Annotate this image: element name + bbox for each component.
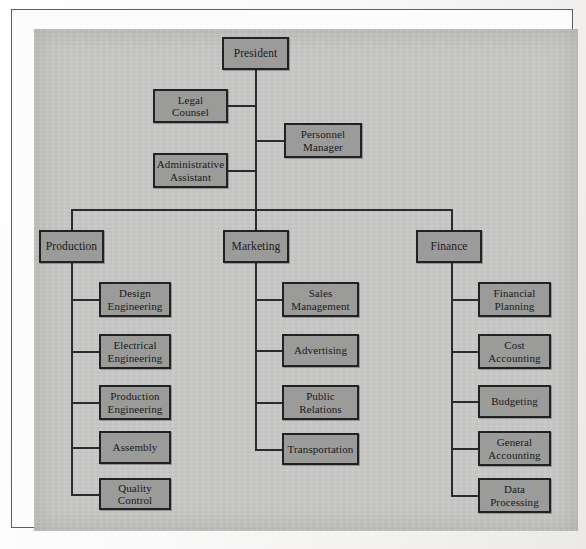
node-marketing: Marketing <box>223 230 289 263</box>
node-label: Legal Counsel <box>172 94 209 119</box>
node-label: President <box>234 47 278 60</box>
node-design-engineering: Design Engineering <box>99 282 171 317</box>
marketing-stem <box>255 263 257 450</box>
organization-chart-figure: PresidentLegal CounselPersonnel ManagerA… <box>0 0 586 549</box>
node-assembly: Assembly <box>99 431 171 464</box>
node-label: Design Engineering <box>108 287 163 312</box>
transportation-link <box>255 449 283 451</box>
node-label: Transportation <box>288 443 354 455</box>
electrical-engineering-link <box>71 351 100 353</box>
design-engineering-link <box>71 299 100 301</box>
finance-drop <box>451 209 453 230</box>
administrative-assistant-link <box>227 170 256 172</box>
node-label: Advertising <box>294 344 347 356</box>
node-production-engineering: Production Engineering <box>99 385 171 420</box>
node-production: Production <box>39 230 104 263</box>
cost-accounting-link <box>451 351 479 353</box>
financial-planning-link <box>451 299 479 301</box>
node-data-processing: Data Processing <box>478 478 551 513</box>
node-label: Data Processing <box>490 483 539 508</box>
node-label: Financial Planning <box>494 287 536 312</box>
division-bus <box>71 209 452 211</box>
finance-stem <box>451 263 453 496</box>
node-label: General Accounting <box>488 436 540 461</box>
production-engineering-link <box>71 402 100 404</box>
production-drop <box>71 209 73 230</box>
node-label: Production Engineering <box>108 390 163 415</box>
node-public-relations: Public Relations <box>282 385 359 420</box>
quality-control-link <box>71 494 100 496</box>
node-label: Assembly <box>113 441 158 453</box>
node-financial-planning: Financial Planning <box>478 282 551 317</box>
node-label: Cost Accounting <box>488 339 540 364</box>
node-administrative-assistant: Administrative Assistant <box>153 153 228 188</box>
node-label: Sales Management <box>291 287 349 312</box>
node-electrical-engineering: Electrical Engineering <box>99 334 171 369</box>
personnel-manager-link <box>255 140 285 142</box>
node-label: Public Relations <box>299 390 341 415</box>
node-president: President <box>222 37 289 70</box>
node-advertising: Advertising <box>282 334 359 367</box>
data-processing-link <box>451 495 479 497</box>
production-stem <box>71 263 73 495</box>
node-label: Electrical Engineering <box>108 339 163 364</box>
node-label: Budgeting <box>491 395 538 407</box>
node-legal-counsel: Legal Counsel <box>153 89 228 123</box>
node-transportation: Transportation <box>282 433 359 465</box>
advertising-link <box>255 350 283 352</box>
general-accounting-link <box>451 448 479 450</box>
node-label: Personnel Manager <box>301 128 345 153</box>
node-label: Quality Control <box>103 482 167 507</box>
marketing-drop <box>255 209 257 230</box>
sales-management-link <box>255 299 283 301</box>
node-finance: Finance <box>416 230 482 263</box>
budgeting-link <box>451 401 479 403</box>
node-budgeting: Budgeting <box>478 385 551 418</box>
node-sales-management: Sales Management <box>282 282 359 317</box>
node-label: Production <box>46 240 97 253</box>
node-personnel-manager: Personnel Manager <box>284 123 362 158</box>
node-label: Administrative Assistant <box>157 158 224 183</box>
node-label: Finance <box>430 240 467 253</box>
public-relations-link <box>255 402 283 404</box>
node-cost-accounting: Cost Accounting <box>478 334 551 369</box>
node-label: Marketing <box>232 240 281 253</box>
node-general-accounting: General Accounting <box>478 431 551 466</box>
assembly-link <box>71 447 100 449</box>
legal-counsel-link <box>227 105 256 107</box>
node-quality-control: Quality Control <box>99 478 171 510</box>
figure-frame: PresidentLegal CounselPersonnel ManagerA… <box>11 9 573 528</box>
